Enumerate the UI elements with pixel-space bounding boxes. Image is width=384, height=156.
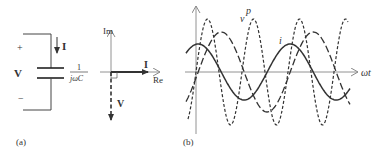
re-axis-label: Re <box>153 75 163 85</box>
x-axis-label: ωt <box>361 67 371 78</box>
top-wire <box>23 34 51 68</box>
curve-label-p: p <box>245 5 251 16</box>
impedance-numerator: 1 <box>77 63 81 72</box>
capacitor-circuit <box>23 34 64 110</box>
minus-sign: − <box>18 93 24 104</box>
im-axis-label: Im <box>103 26 113 36</box>
phasor-voltage-label: V <box>117 98 125 109</box>
panel-b-label: (b) <box>183 137 194 147</box>
phasor-diagram <box>100 30 160 120</box>
figure-canvas: + V − I 1 jωC Im Re I V (a) v p i ωt (b) <box>0 0 384 156</box>
phasor-current-label: I <box>144 59 148 70</box>
curve-label-i: i <box>279 35 282 46</box>
bottom-wire <box>23 78 51 110</box>
waveform-plot <box>185 6 358 134</box>
plus-sign: + <box>17 42 23 53</box>
voltage-label: V <box>14 67 22 79</box>
impedance-denominator: jωC <box>69 74 84 83</box>
current-label: I <box>62 40 66 52</box>
curve-label-v: v <box>240 13 245 24</box>
panel-a-label: (a) <box>16 137 26 147</box>
